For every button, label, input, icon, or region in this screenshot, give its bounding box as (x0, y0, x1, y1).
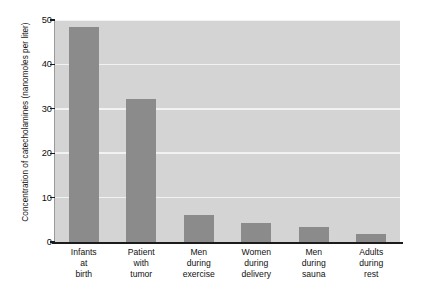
y-tick-mark-20 (50, 153, 55, 154)
bar (356, 234, 386, 242)
x-axis-label-line: tumor (113, 269, 171, 280)
y-axis-tick-labels: 01020304050 (24, 0, 52, 294)
x-axis-label-line: Patient (113, 247, 171, 258)
y-tick-mark-0 (50, 241, 55, 242)
bar (184, 215, 214, 242)
bar (126, 99, 156, 242)
x-axis-label-line: delivery (228, 269, 286, 280)
x-axis-label-line: during (285, 258, 343, 269)
y-tick-label-40: 40 (24, 59, 52, 69)
x-axis-label-line: with (113, 258, 171, 269)
x-axis-label: Patientwithtumor (113, 247, 171, 281)
x-axis-label-line: at (55, 258, 113, 269)
x-axis-label: Menduringsauna (285, 247, 343, 281)
x-axis-label-line: Men (170, 247, 228, 258)
y-tick-mark-10 (50, 197, 55, 198)
y-tick-mark-50 (50, 19, 55, 20)
x-axis-label-line: sauna (285, 269, 343, 280)
x-axis-label: Menduringexercise (170, 247, 228, 281)
x-axis-label-line: Women (228, 247, 286, 258)
x-axis-label-line: Infants (55, 247, 113, 258)
bars-group (55, 20, 400, 242)
bar (241, 223, 271, 242)
y-tick-label-0: 0 (24, 237, 52, 247)
x-axis-label: Infantsatbirth (55, 247, 113, 281)
x-axis-label-line: during (228, 258, 286, 269)
y-tick-label-20: 20 (24, 148, 52, 158)
plot-area (55, 20, 400, 242)
y-tick-label-50: 50 (24, 15, 52, 25)
y-tick-mark-30 (50, 108, 55, 109)
x-axis-label-line: Adults (343, 247, 401, 258)
bar (299, 227, 329, 242)
x-axis-label: Womenduringdelivery (228, 247, 286, 281)
x-axis-label-line: during (343, 258, 401, 269)
x-axis-label-line: Men (285, 247, 343, 258)
y-axis-line (54, 20, 55, 242)
x-axis-line (52, 242, 403, 244)
bar (69, 27, 99, 242)
x-axis-label-line: birth (55, 269, 113, 280)
x-axis-category-labels: InfantsatbirthPatientwithtumorMenduringe… (55, 247, 400, 291)
y-tick-label-30: 30 (24, 104, 52, 114)
x-axis-label-line: exercise (170, 269, 228, 280)
x-axis-label-line: rest (343, 269, 401, 280)
x-axis-label-line: during (170, 258, 228, 269)
y-tick-label-10: 10 (24, 193, 52, 203)
bar-chart: Concentration of catecholamines (nanomol… (0, 0, 426, 294)
x-axis-label: Adultsduringrest (343, 247, 401, 281)
y-tick-mark-40 (50, 64, 55, 65)
